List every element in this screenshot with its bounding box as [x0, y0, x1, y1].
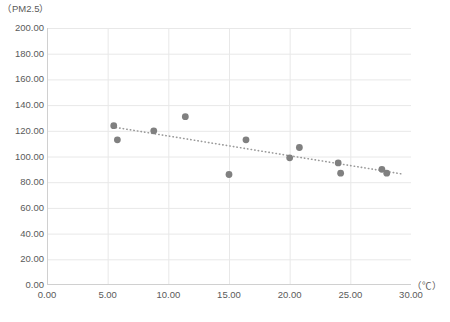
x-tick-label: 10.00 [156, 290, 180, 300]
data-point [114, 136, 121, 143]
data-point [383, 170, 390, 177]
x-tick-label: 20.00 [278, 290, 302, 300]
data-point [337, 170, 344, 177]
trendline-path [113, 127, 402, 174]
trendline [113, 127, 402, 174]
plot-svg [47, 28, 411, 285]
x-tick-label: 5.00 [98, 290, 117, 300]
x-tick-label: 25.00 [338, 290, 362, 300]
data-point [296, 144, 303, 151]
data-point [286, 154, 293, 161]
data-point [243, 136, 250, 143]
data-point [182, 113, 189, 120]
x-tick-label: 0.00 [38, 290, 57, 300]
data-point [110, 122, 117, 129]
data-point [335, 160, 342, 167]
scatter-chart: （PM2.5） （℃） 0.0020.0040.0060.0080.00100.… [0, 0, 450, 322]
data-markers [110, 113, 390, 178]
data-point [150, 127, 157, 134]
plot-area [47, 28, 411, 285]
x-tick-label: 30.00 [399, 290, 423, 300]
data-point [226, 171, 233, 178]
x-tick-label: 15.00 [217, 290, 241, 300]
